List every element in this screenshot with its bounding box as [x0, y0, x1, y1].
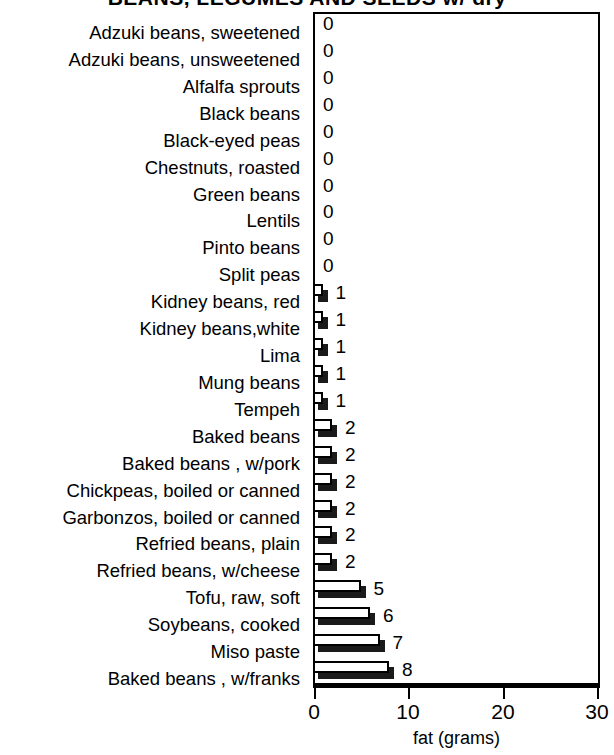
- bar-face: [313, 580, 361, 592]
- bar: [313, 470, 340, 497]
- category-label: Black beans: [0, 104, 305, 124]
- bar-value-label: 2: [345, 552, 356, 572]
- bar-face: [313, 553, 332, 565]
- bar-value-label: 0: [323, 176, 334, 196]
- bar-value-label: 1: [336, 310, 347, 330]
- category-label: Baked beans: [0, 427, 305, 447]
- category-label: Green beans: [0, 185, 305, 205]
- bar-face: [313, 500, 332, 512]
- bar-value-label: 5: [374, 579, 385, 599]
- bar: [313, 335, 331, 362]
- bar-value-label: 0: [323, 229, 334, 249]
- bar-face: [313, 661, 389, 673]
- bar-value-label: 0: [323, 95, 334, 115]
- bar-value-label: 7: [393, 633, 404, 653]
- category-label: Alfalfa sprouts: [0, 77, 305, 97]
- category-label: Refried beans, plain: [0, 534, 305, 554]
- bar-value-label: 0: [323, 122, 334, 142]
- bar-value-label: 0: [323, 14, 334, 34]
- bar: [313, 497, 340, 524]
- bar-value-label: 0: [323, 256, 334, 276]
- bar: [313, 604, 378, 631]
- category-label: Split peas: [0, 265, 305, 285]
- x-axis-tick-label: 0: [308, 700, 320, 724]
- bar: [313, 362, 331, 389]
- bar-value-label: 0: [323, 68, 334, 88]
- bar-value-label: 6: [383, 606, 394, 626]
- category-label: Lima: [0, 346, 305, 366]
- bar: [313, 523, 340, 550]
- category-label: Black-eyed peas: [0, 131, 305, 151]
- x-axis-tick-label: 30: [585, 700, 608, 724]
- category-label: Chestnuts, roasted: [0, 158, 305, 178]
- bar-value-label: 0: [323, 41, 334, 61]
- bar: [313, 443, 340, 470]
- bar-face: [313, 607, 370, 619]
- bar: [313, 577, 369, 604]
- bar: [313, 308, 331, 335]
- bar-face: [313, 473, 332, 485]
- bar-value-label: 1: [336, 337, 347, 357]
- category-axis: Adzuki beans, sweetenedAdzuki beans, uns…: [0, 10, 305, 685]
- category-label: Adzuki beans, unsweetened: [0, 50, 305, 70]
- bars-layer: [313, 12, 600, 685]
- category-label: Kidney beans,white: [0, 319, 305, 339]
- bar-value-label: 0: [323, 149, 334, 169]
- bar-value-label: 2: [345, 525, 356, 545]
- category-label: Lentils: [0, 211, 305, 231]
- bar-face: [313, 392, 323, 404]
- category-label: Chickpeas, boiled or canned: [0, 481, 305, 501]
- category-label: Kidney beans, red: [0, 292, 305, 312]
- bar-value-label: 2: [345, 499, 356, 519]
- category-label: Mung beans: [0, 373, 305, 393]
- bar-value-label: 1: [336, 391, 347, 411]
- category-label: Garbonzos, boiled or canned: [0, 508, 305, 528]
- category-label: Miso paste: [0, 642, 305, 662]
- bar-value-label: 1: [336, 364, 347, 384]
- bar-value-label: 2: [345, 418, 356, 438]
- bar: [313, 550, 340, 577]
- chart-title: BEANS, LEGUMES AND SEEDS w/ dry: [0, 0, 614, 10]
- category-label: Adzuki beans, sweetened: [0, 23, 305, 43]
- bar-face: [313, 365, 323, 377]
- category-label: Refried beans, w/cheese: [0, 561, 305, 581]
- x-axis-tick: [408, 688, 410, 699]
- bar-face: [313, 446, 332, 458]
- bar-face: [313, 284, 323, 296]
- x-axis-line: [313, 685, 600, 688]
- bar-face: [313, 526, 332, 538]
- bar-value-label: 0: [323, 202, 334, 222]
- x-axis-tick-label: 20: [491, 700, 514, 724]
- category-label: Soybeans, cooked: [0, 615, 305, 635]
- x-axis-tick: [503, 688, 505, 699]
- category-label: Pinto beans: [0, 238, 305, 258]
- bar: [313, 389, 331, 416]
- bar-face: [313, 634, 380, 646]
- x-axis-tick-label: 10: [396, 700, 419, 724]
- category-label: Baked beans , w/franks: [0, 669, 305, 689]
- x-axis-tick: [597, 688, 599, 699]
- bar-value-label: 8: [402, 660, 413, 680]
- x-axis-title: fat (grams): [313, 728, 600, 749]
- x-axis-tick: [314, 688, 316, 699]
- bar-value-label: 2: [345, 445, 356, 465]
- bar: [313, 631, 388, 658]
- bar: [313, 416, 340, 443]
- bar: [313, 658, 397, 685]
- bar-face: [313, 419, 332, 431]
- bar-value-label: 1: [336, 283, 347, 303]
- category-label: Baked beans , w/pork: [0, 454, 305, 474]
- bar-face: [313, 311, 323, 323]
- bar: [313, 281, 331, 308]
- chart-container: BEANS, LEGUMES AND SEEDS w/ dry Adzuki b…: [0, 0, 614, 755]
- bar-face: [313, 338, 323, 350]
- category-label: Tofu, raw, soft: [0, 588, 305, 608]
- bar-value-label: 2: [345, 472, 356, 492]
- category-label: Tempeh: [0, 400, 305, 420]
